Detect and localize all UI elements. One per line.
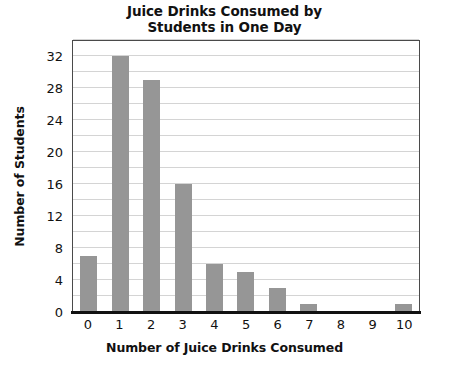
bar-slot [325,41,356,312]
y-tick-label: 32 [25,50,63,63]
x-tick-label: 2 [135,317,167,335]
gridline [73,39,419,40]
x-tick-label: 10 [388,317,420,335]
chart-title: Juice Drinks Consumed by Students in One… [0,3,449,35]
x-tick-label: 3 [167,317,199,335]
y-tick-label: 24 [25,114,63,127]
x-axis-tick-labels: 012345678910 [72,317,420,335]
bar-slot [356,41,387,312]
bar-slot [136,41,167,312]
bar [206,264,223,312]
bar [80,256,97,312]
bar-slot [388,41,419,312]
bar-chart-figure: Juice Drinks Consumed by Students in One… [0,0,449,376]
x-tick-label: 5 [230,317,262,335]
bar-slot [104,41,135,312]
bar-slot [230,41,261,312]
bar-slot [199,41,230,312]
chart-title-line-1: Juice Drinks Consumed by [0,3,449,19]
bar [175,184,192,312]
y-tick-label: 28 [25,82,63,95]
x-tick-label: 8 [325,317,357,335]
y-axis-tick-labels: 048121620242832 [28,40,68,312]
y-tick-label: 20 [25,146,63,159]
x-axis-line [71,311,421,314]
plot-area [72,40,420,312]
x-axis-title: Number of Juice Drinks Consumed [0,340,449,355]
x-axis-title-text: Number of Juice Drinks Consumed [106,340,343,355]
y-tick-label: 0 [25,306,63,319]
chart-title-line-2: Students in One Day [0,19,449,35]
y-axis-title-text: Number of Students [12,106,27,247]
bar-slot [262,41,293,312]
bar-slot [293,41,324,312]
bar-slot [167,41,198,312]
x-tick-label: 9 [357,317,389,335]
x-tick-label: 0 [72,317,104,335]
y-tick-label: 4 [25,274,63,287]
x-tick-label: 1 [104,317,136,335]
y-tick-label: 16 [25,178,63,191]
bar-slot [73,41,104,312]
y-tick-label: 8 [25,242,63,255]
bar [112,56,129,312]
bar-series [73,41,419,312]
y-tick-label: 12 [25,210,63,223]
x-tick-label: 6 [262,317,294,335]
x-tick-label: 7 [293,317,325,335]
x-tick-label: 4 [199,317,231,335]
bar [237,272,254,312]
bar [269,288,286,312]
bar [143,80,160,312]
